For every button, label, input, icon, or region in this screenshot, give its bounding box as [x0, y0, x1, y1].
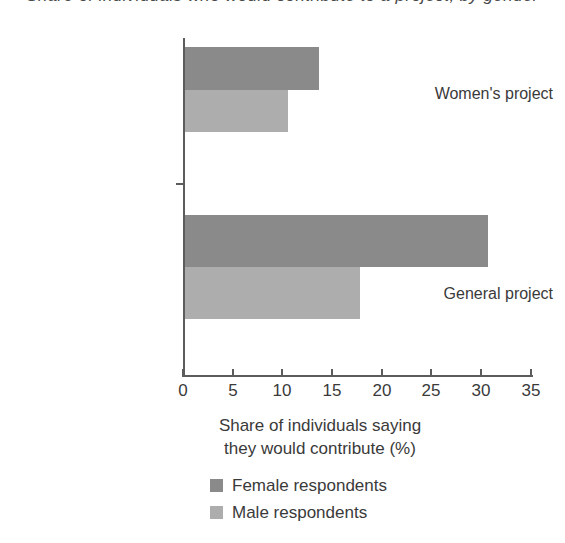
x-axis-title-line2: they would contribute (%): [120, 437, 520, 460]
male-swatch-icon: [210, 506, 223, 519]
x-tick-label-0: 0: [163, 381, 203, 401]
legend-label-male: Male respondents: [232, 503, 367, 523]
x-tick-20: [381, 369, 383, 377]
x-axis-title-line1: Share of individuals saying: [120, 414, 520, 437]
legend-item-female: Female respondents: [150, 472, 480, 499]
female-swatch-icon: [210, 479, 223, 492]
x-tick-label-15: 15: [312, 381, 352, 401]
x-tick-0: [182, 369, 184, 377]
x-tick-label-5: 5: [213, 381, 253, 401]
x-tick-25: [430, 369, 432, 377]
x-tick-35: [530, 369, 532, 377]
x-tick-5: [232, 369, 234, 377]
x-tick-label-10: 10: [262, 381, 302, 401]
x-tick-15: [331, 369, 333, 377]
x-tick-label-20: 20: [362, 381, 402, 401]
x-axis-title: Share of individuals saying they would c…: [120, 414, 520, 460]
chart-page: { "chart_data": { "type": "bar", "orient…: [0, 0, 565, 543]
x-tick-label-25: 25: [411, 381, 451, 401]
legend-label-female: Female respondents: [232, 476, 387, 496]
legend: Female respondents Male respondents: [150, 472, 480, 526]
x-tick-label-30: 30: [461, 381, 501, 401]
category-label-womens-project: Women's project: [373, 85, 553, 103]
x-axis-ticks: 0 5 10 15 20 25 30 35: [0, 0, 565, 543]
legend-item-male: Male respondents: [150, 499, 480, 526]
x-tick-label-35: 35: [511, 381, 551, 401]
category-label-general-project: General project: [373, 285, 553, 303]
x-tick-30: [480, 369, 482, 377]
x-tick-10: [281, 369, 283, 377]
